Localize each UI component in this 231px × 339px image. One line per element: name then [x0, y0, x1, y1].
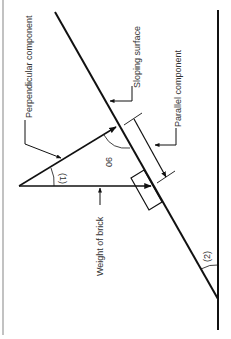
- parallel-leader: [155, 128, 176, 145]
- sloping-leader: [110, 86, 132, 101]
- angle-1-arc: [51, 168, 54, 186]
- angle-2-label: (2): [202, 251, 212, 262]
- angle-1-label: (1): [58, 173, 68, 184]
- perpendicular-leader: [25, 120, 61, 158]
- parallel-vector: [134, 119, 166, 177]
- parallel-label: Parallel component: [173, 49, 183, 127]
- weight-label: Weight of brick: [95, 216, 105, 276]
- brick: [131, 170, 162, 210]
- angle-2-arc: [201, 265, 218, 269]
- sloping-label: Sloping surface: [132, 26, 142, 88]
- perpendicular-label: Perpendicular component: [24, 15, 34, 118]
- parallel-tick-top: [124, 113, 142, 125]
- inclined-plane-diagram: (2) (1) 90 Perpendicular component Slopi…: [0, 0, 231, 339]
- right-angle-label: 90: [104, 157, 114, 167]
